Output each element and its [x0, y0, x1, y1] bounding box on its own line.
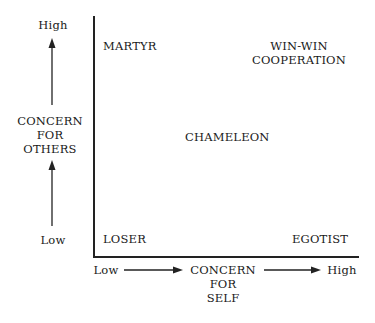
x-axis-low-label: Low — [90, 263, 122, 277]
quadrant-martyr: MARTYR — [103, 39, 157, 53]
x-axis-title: CONCERN FOR SELF — [188, 263, 258, 305]
quadrant-win-win: WIN-WIN COOPERATION — [250, 39, 348, 67]
quadrant-chameleon: CHAMELEON — [185, 130, 270, 144]
arrow-up-icon — [49, 160, 56, 226]
x-axis-title-line: SELF — [188, 291, 258, 305]
arrow-up-icon — [49, 38, 56, 105]
x-axis-title-line: CONCERN — [188, 263, 258, 277]
quadrant-egotist: EGOTIST — [292, 232, 348, 246]
x-axis-title-line: FOR — [188, 277, 258, 291]
arrow-right-icon — [264, 267, 321, 274]
quadrant-win-win-line: COOPERATION — [250, 53, 348, 67]
quadrant-win-win-line: WIN-WIN — [250, 39, 348, 53]
quadrant-loser: LOSER — [103, 232, 146, 246]
x-axis-high-label: High — [325, 263, 359, 277]
arrow-right-icon — [124, 267, 183, 274]
